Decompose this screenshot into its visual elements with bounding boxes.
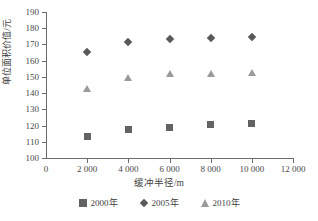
data-point-diamond xyxy=(124,38,132,46)
x-axis-tick xyxy=(170,159,171,163)
y-axis-tick xyxy=(42,12,46,13)
legend-square-icon xyxy=(79,199,87,207)
y-axis-tick-label: 120 xyxy=(0,122,39,131)
y-axis-tick-label: 100 xyxy=(0,154,39,163)
x-axis-tick-label: 6 000 xyxy=(159,165,179,174)
data-point-diamond xyxy=(248,33,256,41)
y-axis-tick xyxy=(42,126,46,127)
data-point-square xyxy=(248,120,255,127)
data-point-square xyxy=(207,121,214,128)
data-point-square xyxy=(125,126,132,133)
y-axis-tick-label: 130 xyxy=(0,105,39,114)
x-axis-tick xyxy=(252,159,253,163)
data-point-triangle xyxy=(207,70,215,77)
x-axis-tick-label: 0 xyxy=(44,165,49,174)
x-axis-tick xyxy=(293,159,294,163)
data-point-triangle xyxy=(83,85,91,92)
data-point-triangle xyxy=(124,74,132,81)
x-axis-tick-label: 8 000 xyxy=(201,165,221,174)
y-axis-tick xyxy=(42,93,46,94)
chart-legend: 2000年2005年2010年 xyxy=(0,198,318,208)
x-axis-tick-label: 4 000 xyxy=(118,165,138,174)
data-point-diamond xyxy=(206,34,214,42)
data-point-triangle xyxy=(166,70,174,77)
y-axis-tick xyxy=(42,77,46,78)
legend-item[interactable]: 2005年 xyxy=(140,198,179,208)
y-axis-tick xyxy=(42,44,46,45)
scatter-chart: 100110120130140150160170180190 02 0004 0… xyxy=(0,0,318,221)
legend-diamond-icon xyxy=(139,199,147,207)
data-point-diamond xyxy=(83,47,91,55)
x-axis-title: 缓冲半径/m xyxy=(0,178,318,189)
legend-triangle-icon xyxy=(201,199,209,207)
x-axis-tick-label: 12 000 xyxy=(281,165,306,174)
x-axis-tick xyxy=(87,159,88,163)
data-point-square xyxy=(166,124,173,131)
y-axis-title: 单位面积价值/元 xyxy=(2,12,12,92)
data-point-triangle xyxy=(248,69,256,76)
y-axis-tick xyxy=(42,61,46,62)
x-axis-tick xyxy=(128,159,129,163)
legend-label: 2000年 xyxy=(91,198,118,208)
y-axis-tick xyxy=(42,158,46,159)
data-point-diamond xyxy=(165,35,173,43)
legend-item[interactable]: 2010年 xyxy=(201,198,240,208)
y-axis-tick xyxy=(42,142,46,143)
y-axis-tick-label: 110 xyxy=(0,138,39,147)
legend-label: 2010年 xyxy=(213,198,240,208)
y-axis-line xyxy=(46,12,47,159)
x-axis-tick-label: 10 000 xyxy=(239,165,264,174)
y-axis-tick xyxy=(42,109,46,110)
x-axis-tick xyxy=(211,159,212,163)
x-axis-tick-label: 2 000 xyxy=(77,165,97,174)
data-point-square xyxy=(84,133,91,140)
legend-label: 2005年 xyxy=(152,198,179,208)
legend-item[interactable]: 2000年 xyxy=(79,198,118,208)
y-axis-tick xyxy=(42,28,46,29)
